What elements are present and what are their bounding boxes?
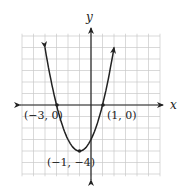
- parabola-chart: x y (−3, 0) (1, 0) (−1, −4): [0, 0, 186, 187]
- point-root-right: [101, 103, 105, 107]
- y-axis-label: y: [85, 10, 93, 24]
- point-root-left: [55, 103, 59, 107]
- label-root-left: (−3, 0): [24, 109, 63, 122]
- point-vertex: [78, 149, 82, 153]
- label-vertex: (−1, −4): [47, 156, 95, 169]
- x-axis-label: x: [170, 98, 177, 112]
- label-root-right: (1, 0): [107, 109, 137, 122]
